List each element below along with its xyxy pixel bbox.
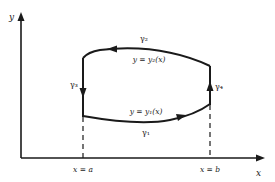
left-arrow-icon	[107, 46, 117, 53]
gamma-2-equation: y = y₂(x)	[132, 55, 166, 64]
curve-gamma-4: γ₄	[207, 66, 224, 105]
gamma-3-label: γ₃	[70, 80, 78, 89]
label-x-equals-b: x = b	[200, 165, 220, 174]
gamma-1-label: γ₁	[142, 128, 150, 137]
x-axis: x	[21, 155, 265, 179]
down-arrow-icon	[80, 88, 87, 98]
right-arrow-icon	[176, 114, 186, 121]
gamma-4-label: γ₄	[215, 82, 223, 91]
x-axis-label: x	[256, 168, 261, 178]
curve-gamma-2: γ₂ y = y₂(x)	[83, 34, 210, 66]
x-axis-arrow-icon	[256, 155, 265, 162]
label-x-equals-a: x = a	[73, 165, 93, 174]
gamma-2-label: γ₂	[140, 34, 148, 43]
region-boundary-diagram: y x x = a x = b γ₂ y = y₂(x) γ₃ γ₄ y = y…	[0, 0, 275, 182]
y-axis: y	[8, 12, 25, 158]
y-axis-label: y	[8, 12, 15, 22]
gamma-1-equation: y = y₁(x)	[129, 107, 163, 116]
up-arrow-icon	[207, 81, 214, 91]
curve-gamma-3: γ₃	[70, 58, 87, 117]
curve-gamma-1: y = y₁(x) γ₁	[83, 104, 210, 137]
y-axis-arrow-icon	[18, 12, 25, 21]
